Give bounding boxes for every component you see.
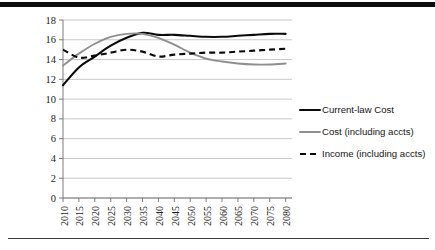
y-axis-ticks-group bbox=[59, 20, 63, 198]
y-tick-label: 12 bbox=[46, 74, 57, 85]
x-tick-label: 2080 bbox=[281, 206, 292, 226]
x-tick-label: 2025 bbox=[106, 206, 117, 226]
x-tick-label: 2045 bbox=[170, 206, 181, 226]
x-axis-ticks-group bbox=[63, 198, 286, 202]
series-line-1 bbox=[63, 33, 286, 65]
x-tick-label: 2035 bbox=[138, 206, 149, 226]
x-axis-labels-group: 2010201520202025203020352040204520502055… bbox=[59, 206, 293, 226]
y-tick-label: 0 bbox=[51, 193, 56, 204]
x-tick-label: 2030 bbox=[122, 206, 133, 226]
y-tick-label: 8 bbox=[51, 113, 56, 124]
y-tick-label: 16 bbox=[46, 34, 57, 45]
x-tick-label: 2075 bbox=[265, 206, 276, 226]
data-series-group bbox=[63, 33, 286, 85]
legend-label-1: Cost (including accts) bbox=[322, 126, 414, 137]
y-axis-labels-group: 024681012141618 bbox=[46, 15, 57, 204]
legend-label-2: Income (including accts) bbox=[322, 148, 425, 159]
line-chart-plot: 024681012141618 201020152020202520302035… bbox=[0, 0, 435, 250]
y-tick-label: 2 bbox=[51, 173, 56, 184]
x-tick-label: 2050 bbox=[186, 206, 197, 226]
x-tick-label: 2015 bbox=[74, 206, 85, 226]
legend-label-0: Current-law Cost bbox=[322, 104, 394, 115]
y-tick-label: 18 bbox=[46, 15, 57, 26]
x-tick-label: 2010 bbox=[59, 206, 70, 226]
chart-legend: Current-law CostCost (including accts)In… bbox=[300, 104, 425, 159]
x-tick-label: 2065 bbox=[233, 206, 244, 226]
x-tick-label: 2060 bbox=[218, 206, 229, 226]
y-tick-label: 14 bbox=[46, 54, 57, 65]
x-tick-label: 2055 bbox=[202, 206, 213, 226]
y-tick-label: 10 bbox=[46, 94, 57, 105]
chart-figure: 024681012141618 201020152020202520302035… bbox=[0, 0, 435, 250]
y-tick-label: 6 bbox=[51, 133, 56, 144]
x-tick-label: 2040 bbox=[154, 206, 165, 226]
series-line-0 bbox=[63, 33, 286, 85]
x-tick-label: 2020 bbox=[90, 206, 101, 226]
x-tick-label: 2070 bbox=[249, 206, 260, 226]
y-tick-label: 4 bbox=[51, 153, 57, 164]
